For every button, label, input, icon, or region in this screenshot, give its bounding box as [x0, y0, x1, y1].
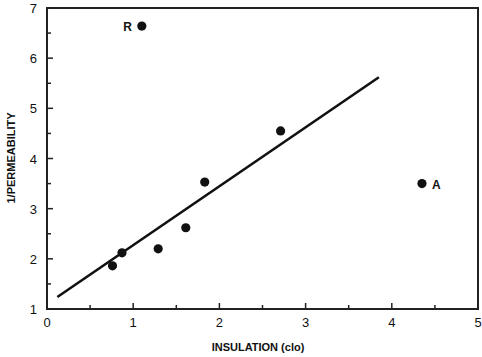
data-point	[108, 261, 117, 270]
tick-labels: 0123451234567	[30, 1, 482, 330]
data-point	[200, 177, 209, 186]
x-axis-title: INSULATION (clo)	[212, 341, 305, 353]
data-point	[181, 223, 190, 232]
data-point	[276, 126, 285, 135]
x-tick-label: 4	[388, 315, 395, 330]
data-point	[417, 179, 426, 188]
y-tick-label: 1	[30, 302, 37, 317]
x-tick-label: 2	[216, 315, 223, 330]
data-point	[154, 244, 163, 253]
regression-line	[57, 77, 379, 297]
y-axis-title: 1/PERMEABILITY	[5, 112, 17, 204]
x-tick-label: 1	[130, 315, 137, 330]
point-label-a: A	[432, 178, 441, 192]
x-tick-label: 5	[474, 315, 481, 330]
y-tick-label: 5	[30, 101, 37, 116]
scatter-chart: 0123451234567 RA INSULATION (clo) 1/PERM…	[0, 0, 482, 357]
data-points	[108, 21, 427, 270]
y-tick-label: 4	[30, 152, 37, 167]
data-point	[137, 21, 146, 30]
x-tick-label: 0	[43, 315, 50, 330]
point-label-r: R	[123, 20, 132, 34]
point-labels: RA	[123, 20, 441, 192]
x-tick-label: 3	[302, 315, 309, 330]
y-tick-label: 2	[30, 252, 37, 267]
y-tick-label: 6	[30, 51, 37, 66]
data-point	[117, 248, 126, 257]
y-tick-label: 3	[30, 202, 37, 217]
y-tick-label: 7	[30, 1, 37, 16]
